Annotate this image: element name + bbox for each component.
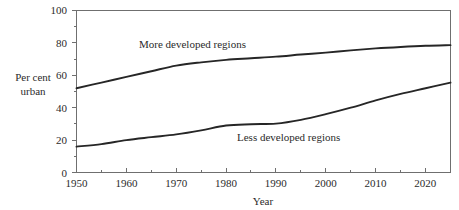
x-tick-label-1980: 1980 — [215, 177, 238, 189]
series-line-more-developed-regions — [77, 45, 451, 88]
y-axis-ticks — [72, 11, 77, 173]
y-axis-title-line1: Per cent — [15, 71, 51, 83]
y-axis-tick-labels: 100 80 60 40 20 0 — [51, 4, 68, 179]
series-annotation-less-developed-regions: Less developed regions — [237, 131, 340, 143]
x-tick-label-1990: 1990 — [265, 177, 288, 189]
y-tick-label-20: 20 — [56, 134, 68, 146]
y-tick-label-40: 40 — [56, 102, 68, 114]
chart-figure: 100 80 60 40 20 0 — [0, 0, 459, 210]
x-tick-label-2010: 2010 — [365, 177, 388, 189]
x-tick-label-1970: 1970 — [165, 177, 188, 189]
x-tick-label-1960: 1960 — [115, 177, 138, 189]
x-axis-tick-labels: 1950 1960 1970 1980 1990 2000 2010 2020 — [66, 177, 437, 189]
y-tick-label-60: 60 — [56, 69, 68, 81]
y-tick-label-100: 100 — [51, 4, 68, 16]
x-tick-label-2000: 2000 — [315, 177, 338, 189]
line-chart: 100 80 60 40 20 0 — [0, 0, 459, 210]
x-tick-label-1950: 1950 — [66, 177, 89, 189]
x-axis-title: Year — [253, 195, 274, 207]
y-axis-title-line2: urban — [20, 85, 46, 97]
y-tick-label-80: 80 — [56, 37, 68, 49]
plot-frame — [77, 11, 451, 173]
x-tick-label-2020: 2020 — [414, 177, 437, 189]
series-annotation-more-developed-regions: More developed regions — [139, 38, 246, 50]
